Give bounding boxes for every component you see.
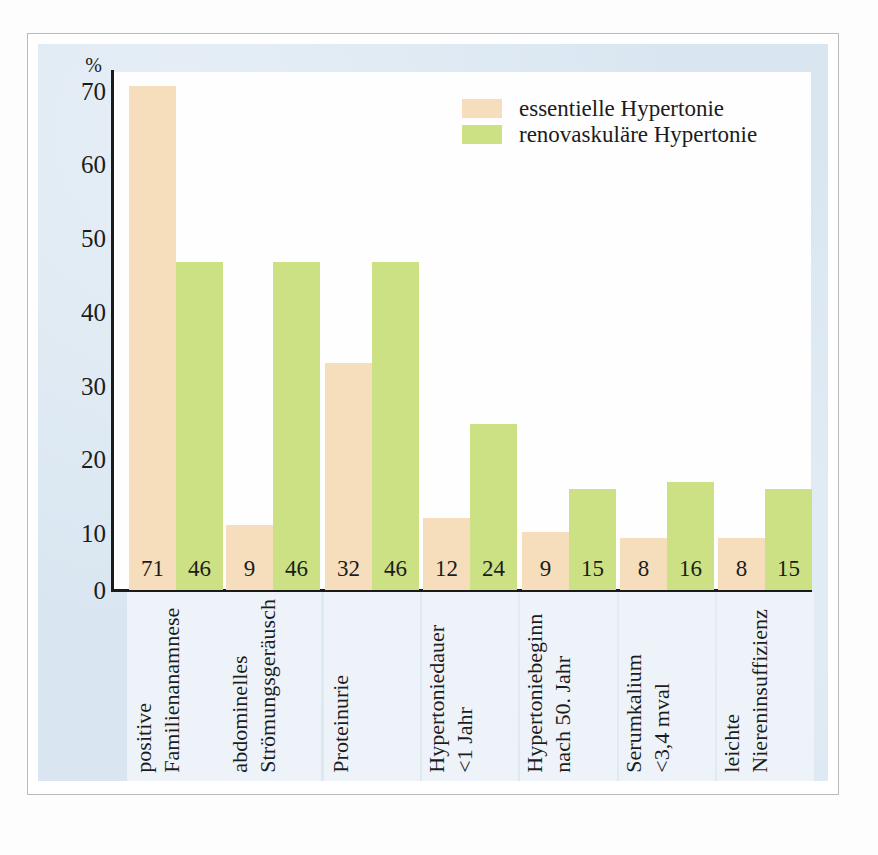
y-tick-70: 70 [50, 79, 106, 104]
legend-label-essential: essentielle Hypertonie [519, 97, 724, 120]
bar-value-renovascular-4: 15 [569, 557, 616, 580]
category-label-4-line2: nach 50. Jahr [551, 584, 576, 773]
bar-value-renovascular-6: 15 [765, 557, 812, 580]
y-tick-40: 40 [50, 300, 106, 325]
bar-renovascular-0[interactable] [176, 262, 223, 590]
category-label-4-line1: Hypertoniebeginn [523, 584, 548, 773]
category-label-3-line2: <1 Jahr [453, 584, 478, 773]
y-tick-50: 50 [50, 226, 106, 251]
y-tick-30: 30 [50, 374, 106, 399]
category-label-3-line1: Hypertoniedauer [425, 584, 450, 773]
category-cell-1[interactable]: abdominelles Strömungsgeräusch [225, 592, 321, 781]
y-axis-tick-labels: 70 60 50 40 30 20 10 0 [40, 0, 106, 855]
bar-essential-0[interactable] [129, 86, 176, 590]
bar-value-essential-2: 32 [325, 557, 372, 580]
bar-value-essential-5: 8 [620, 557, 667, 580]
category-cell-4[interactable]: Hypertoniebeginn nach 50. Jahr [520, 592, 617, 781]
category-cell-3[interactable]: Hypertoniedauer <1 Jahr [422, 592, 518, 781]
category-cell-5[interactable]: Serumkalium <3,4 mval [619, 592, 715, 781]
bar-value-renovascular-1: 46 [273, 557, 320, 580]
category-label-0-line2: Familienanamnese [160, 584, 185, 773]
category-label-6-line1: leichte [720, 584, 745, 773]
category-label-band: positive Familienanamnese abdominelles S… [113, 592, 811, 781]
bar-value-renovascular-0: 46 [176, 557, 223, 580]
category-label-5-line1: Serumkalium [622, 584, 647, 773]
category-cell-2[interactable]: Proteinurie [324, 592, 420, 781]
bar-value-essential-1: 9 [226, 557, 273, 580]
bar-value-renovascular-3: 24 [470, 557, 517, 580]
bar-value-essential-6: 8 [718, 557, 765, 580]
category-label-1-line1: abdominelles [228, 584, 253, 773]
bar-renovascular-2[interactable] [372, 262, 419, 590]
category-cell-0[interactable]: positive Familienanamnese [127, 592, 225, 781]
category-cell-6[interactable]: leichte Niereninsuffizienz [717, 592, 814, 781]
bar-renovascular-1[interactable] [273, 262, 320, 590]
legend-swatch-renovascular-icon [462, 125, 502, 144]
legend-swatch-essential-icon [462, 99, 502, 118]
bar-value-renovascular-2: 46 [372, 557, 419, 580]
y-tick-0: 0 [50, 578, 106, 603]
legend-item-essential[interactable]: essentielle Hypertonie [462, 96, 757, 120]
category-label-6-line2: Niereninsuffizienz [748, 584, 773, 773]
chart-legend: essentielle Hypertonie renovaskuläre Hyp… [462, 96, 757, 148]
legend-label-renovascular: renovaskuläre Hypertonie [519, 123, 757, 146]
category-label-1-line2: Strömungsgeräusch [256, 584, 281, 773]
bar-value-renovascular-5: 16 [667, 557, 714, 580]
bar-value-essential-0: 71 [129, 557, 176, 580]
y-tick-60: 60 [50, 152, 106, 177]
bar-value-essential-3: 12 [423, 557, 470, 580]
category-label-5-line2: <3,4 mval [650, 584, 675, 773]
legend-item-renovascular[interactable]: renovaskuläre Hypertonie [462, 122, 757, 146]
figure-root: % 70 60 50 40 30 20 10 0 71 46 9 46 32 4… [0, 0, 878, 855]
category-label-0-line1: positive [132, 584, 157, 773]
y-tick-10: 10 [50, 521, 106, 546]
y-tick-20: 20 [50, 447, 106, 472]
category-label-2-line1: Proteinurie [329, 584, 354, 773]
bars-layer: 71 46 9 46 32 46 12 24 9 15 8 16 8 15 [113, 72, 811, 590]
bar-value-essential-4: 9 [522, 557, 569, 580]
